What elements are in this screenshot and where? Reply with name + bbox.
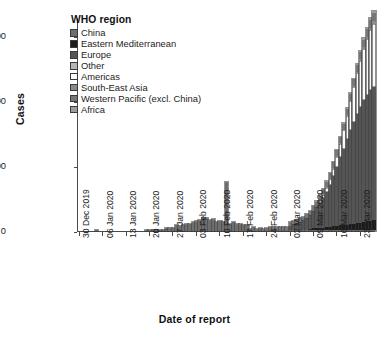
legend-swatch-icon <box>70 29 78 37</box>
x-tick-label: 23 Mar 2020 <box>363 190 372 238</box>
legend-item: Western Pacific (excl. China) <box>70 93 201 104</box>
x-tick-label: 30 Dec 2019 <box>82 189 91 238</box>
x-tick-label: 06 Jan 2020 <box>106 191 115 238</box>
x-tick-mark <box>243 232 244 236</box>
bar-segment <box>372 220 375 230</box>
y-tick-label: 40000 <box>0 97 6 106</box>
x-tick-label: 03 Feb 2020 <box>199 190 208 238</box>
legend-swatch-icon <box>70 106 78 114</box>
legend-item: South-East Asia <box>70 82 201 93</box>
x-tick-mark <box>290 232 291 236</box>
covid-cases-bar-chart: Cases 0200004000060000 30 Dec 201906 Jan… <box>0 0 389 340</box>
legend-item: Eastern Mediterranean <box>70 38 201 49</box>
x-tick-mark <box>79 232 80 236</box>
x-tick-mark <box>313 232 314 236</box>
bar-segment <box>372 87 375 220</box>
x-axis-title: Date of report <box>0 313 389 325</box>
legend-item: China <box>70 28 201 39</box>
legend-swatch-icon <box>70 84 78 92</box>
x-tick-mark <box>149 232 150 236</box>
legend-item-label: Africa <box>81 105 105 114</box>
legend-items: ChinaEastern MediterraneanEuropeOtherAme… <box>70 28 201 115</box>
legend-item-label: Europe <box>81 50 111 59</box>
legend-swatch-icon <box>70 51 78 59</box>
x-tick-label: 20 Jan 2020 <box>152 191 161 238</box>
legend-swatch-icon <box>70 40 78 48</box>
x-tick-mark <box>196 232 197 236</box>
x-tick-mark <box>360 232 361 236</box>
legend-item-label: South-East Asia <box>81 83 148 92</box>
x-tick-mark <box>219 232 220 236</box>
legend-swatch-icon <box>70 62 78 70</box>
bar <box>372 11 375 231</box>
x-tick-label: 13 Jan 2020 <box>129 191 138 238</box>
y-tick-label: 20000 <box>0 162 6 171</box>
x-tick-label: 09 Mar 2020 <box>316 190 325 238</box>
x-tick-label: 17 Feb 2020 <box>246 190 255 238</box>
x-tick-mark <box>126 232 127 236</box>
bar-segment <box>372 230 375 231</box>
legend-item: Other <box>70 60 201 71</box>
legend-item-label: China <box>81 28 106 37</box>
x-tick-label: 10 Feb 2020 <box>223 190 232 238</box>
x-tick-mark <box>172 232 173 236</box>
x-tick-label: 27 Jan 2020 <box>176 191 185 238</box>
legend-item-label: Other <box>81 61 104 70</box>
legend-swatch-icon <box>70 95 78 103</box>
bar-segment <box>95 230 98 231</box>
y-tick-label: 60000 <box>0 32 6 41</box>
legend-item-label: Eastern Mediterranean <box>81 39 176 48</box>
bar-segment <box>372 13 375 21</box>
legend-item: Americas <box>70 71 201 82</box>
legend-item-label: Americas <box>81 72 120 81</box>
legend-item: Europe <box>70 49 201 60</box>
legend-title: WHO region <box>71 14 201 25</box>
x-tick-mark <box>336 232 337 236</box>
bar <box>95 230 98 231</box>
x-tick-mark <box>102 232 103 236</box>
x-tick-mark <box>266 232 267 236</box>
y-tick-mark <box>74 232 78 233</box>
legend-swatch-icon <box>70 73 78 81</box>
legend: WHO region ChinaEastern MediterraneanEur… <box>70 14 201 115</box>
bar-segment <box>372 24 375 87</box>
x-tick-label: 24 Feb 2020 <box>270 190 279 238</box>
legend-item: Africa <box>70 104 201 115</box>
y-tick-label: 0 <box>0 227 6 236</box>
legend-item-label: Western Pacific (excl. China) <box>81 94 201 103</box>
x-tick-label: 16 Mar 2020 <box>340 190 349 238</box>
y-axis-title: Cases <box>14 69 26 149</box>
x-tick-label: 02 Mar 2020 <box>293 190 302 238</box>
